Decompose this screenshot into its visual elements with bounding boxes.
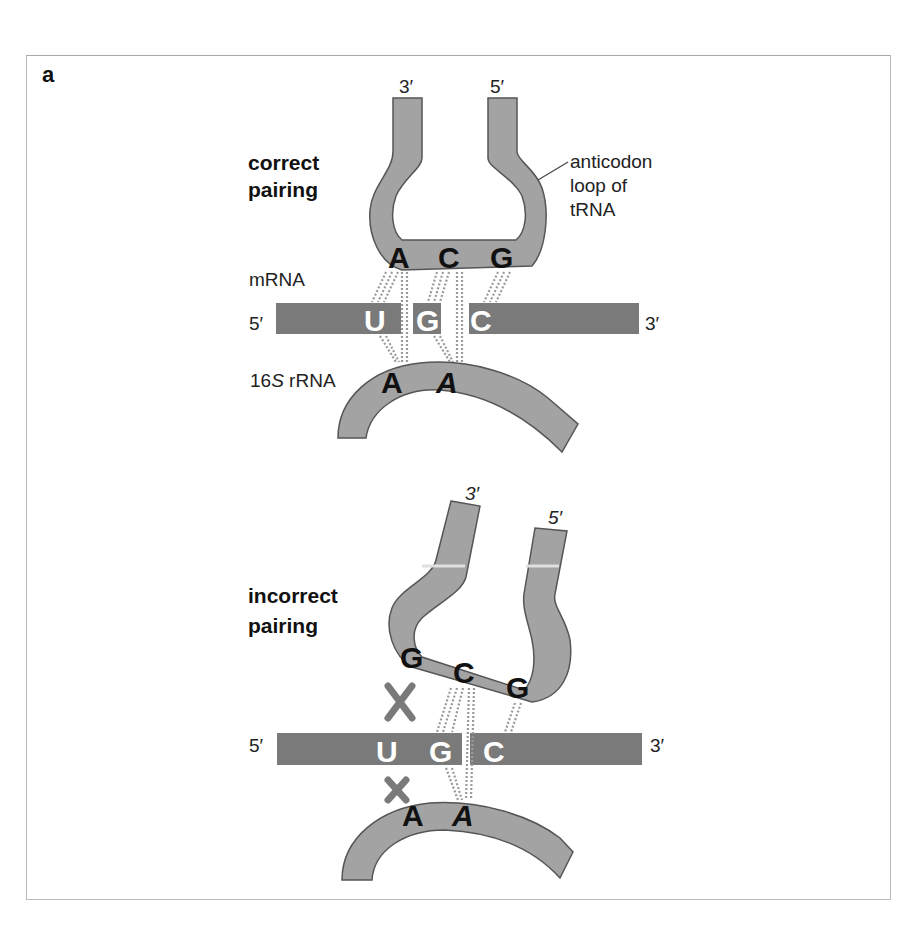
codon-base-2: G — [416, 304, 439, 337]
trna-5prime-end-mismatched: 5′ — [548, 507, 564, 528]
anticodon-base-2: C — [438, 241, 460, 274]
ribosome-decoding-diagram: a correct pairing 3′ 5′ A C G anticodon … — [0, 0, 917, 944]
rrna-base-1: A — [381, 366, 403, 399]
panel-label: a — [42, 62, 55, 87]
anticodon-base-2-mismatched: C — [453, 656, 475, 689]
anticodon-base-1-mismatched: G — [400, 641, 423, 674]
codon-base-2-lower: G — [429, 735, 452, 768]
codon-base-1: U — [364, 304, 386, 337]
mrna-5prime-end-lower: 5′ — [249, 735, 264, 756]
annotation-line1: anticodon — [570, 151, 652, 172]
anticodon-base-3: G — [490, 241, 513, 274]
rrna-base-2-lower: A — [451, 799, 474, 832]
mismatch-x-icon-upper — [388, 686, 412, 718]
anticodon-base-3-mismatched: G — [506, 671, 529, 704]
trna-3prime-end: 3′ — [399, 76, 414, 97]
mrna-3prime-end-lower: 3′ — [650, 735, 665, 756]
annotation-line3: tRNA — [570, 199, 616, 220]
incorrect-pairing-title-line1: incorrect — [248, 584, 338, 607]
correct-pairing-title-line2: pairing — [248, 178, 318, 201]
mrna-strand-seg3 — [469, 303, 639, 334]
codon-base-1-lower: U — [376, 735, 398, 768]
annotation-line2: loop of — [570, 175, 628, 196]
mrna-3prime-end: 3′ — [645, 313, 660, 334]
correct-pairing-title-line1: correct — [248, 151, 319, 174]
rrna-base-1-lower: A — [402, 799, 424, 832]
correct-pairing-section: correct pairing 3′ 5′ A C G anticodon lo… — [248, 76, 660, 452]
rrna-base-2: A — [435, 366, 458, 399]
incorrect-pairing-title-line2: pairing — [248, 614, 318, 637]
trna-3prime-end-mismatched: 3′ — [465, 483, 481, 504]
codon-base-3: C — [470, 304, 492, 337]
trna-5prime-end: 5′ — [490, 76, 505, 97]
anticodon-loop-leader-line — [538, 162, 568, 180]
incorrect-pairing-section: incorrect pairing 3′ 5′ G C G 5′ 3′ U G … — [248, 483, 665, 880]
anticodon-base-1: A — [388, 241, 410, 274]
mrna-label: mRNA — [249, 269, 305, 290]
rrna-16s-strand — [338, 362, 578, 452]
codon-base-3-lower: C — [483, 735, 505, 768]
hydrogen-bonds-rrna-mrna — [380, 336, 453, 362]
rrna-label: 16S rRNA — [250, 370, 336, 391]
mismatch-x-icon-lower — [388, 780, 406, 800]
mrna-5prime-end: 5′ — [249, 313, 264, 334]
